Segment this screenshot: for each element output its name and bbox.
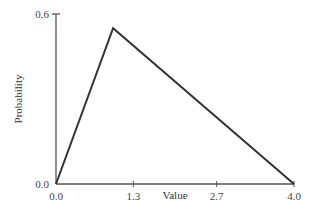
density-line xyxy=(56,28,294,184)
x-axis-label: Value xyxy=(162,189,187,201)
y-axis-label: Probability xyxy=(12,74,24,123)
y-tick-label: 0.6 xyxy=(35,8,49,20)
x-tick-label: 1.3 xyxy=(126,190,140,201)
triangular-distribution-chart: 0.00.6 0.01.32.74.0 Value Probability xyxy=(0,0,317,201)
x-tick-label: 0.0 xyxy=(49,190,63,201)
y-tick-label: 0.0 xyxy=(35,178,49,190)
axes xyxy=(56,14,294,184)
x-tick-label: 4.0 xyxy=(287,190,301,201)
x-tick-label: 2.7 xyxy=(210,190,224,201)
